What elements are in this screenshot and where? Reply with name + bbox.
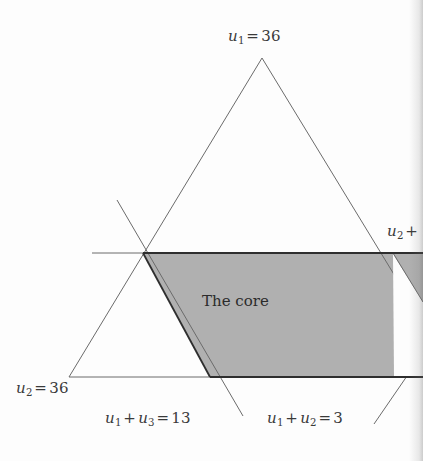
- label-the-core: The core: [202, 292, 269, 310]
- label-u1-plus-u3-equals-13-text: u1+u3=13: [105, 409, 191, 427]
- core-shaded-region: [143, 253, 423, 377]
- label-u1-equals-36: u1=36: [228, 27, 281, 46]
- label-u1-plus-u3-equals-13: u1+u3=13: [105, 409, 191, 428]
- label-u2-plus-clipped: u2+: [387, 222, 420, 241]
- label-u2-equals-36-text: u2=36: [16, 379, 69, 397]
- label-u1-equals-36-text: u1=36: [228, 27, 281, 45]
- label-u1-plus-u2-equals-3: u1+u2=3: [267, 409, 343, 428]
- corner-constraint-line: [374, 376, 407, 424]
- label-u2-plus-clipped-text: u2+: [387, 222, 420, 240]
- figure-page: u1=36 u2+ u2=36 u1+u3=13 u1+u2=3 The cor…: [0, 0, 423, 461]
- label-u1-plus-u2-equals-3-text: u1+u2=3: [267, 409, 343, 427]
- label-u2-equals-36: u2=36: [16, 379, 69, 398]
